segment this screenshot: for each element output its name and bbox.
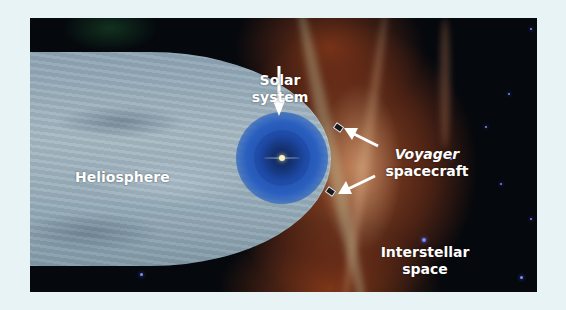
heliosphere-label: Heliosphere xyxy=(75,169,170,186)
voyager-2-arrow xyxy=(338,176,375,194)
interstellar-text-1: Interstellar xyxy=(375,244,475,261)
solar-system-text-2: system xyxy=(248,89,312,106)
voyager-text-1: Voyager xyxy=(377,146,477,163)
voyager-label: Voyager spacecraft xyxy=(377,146,477,180)
interstellar-text-2: space xyxy=(375,261,475,278)
solar-system-label: Solar system xyxy=(248,72,312,106)
diagram-frame: Heliosphere Solar system Voyager spacecr… xyxy=(30,18,537,292)
voyager-1-arrow xyxy=(344,128,378,146)
solar-system-text-1: Solar xyxy=(248,72,312,89)
voyager-text-2: spacecraft xyxy=(377,163,477,180)
interstellar-label: Interstellar space xyxy=(375,244,475,278)
heliosphere-text: Heliosphere xyxy=(75,169,170,185)
